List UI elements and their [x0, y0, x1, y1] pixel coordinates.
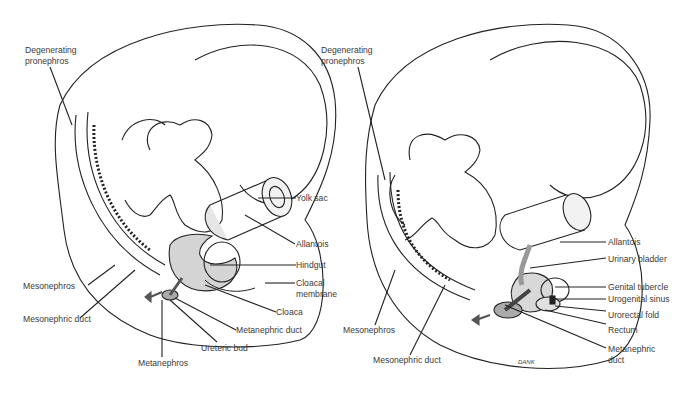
- right-embryo: [358, 24, 650, 368]
- label-mesonephros-left: Mesonephros: [23, 281, 75, 292]
- label-mesonephric-duct-right: Mesonephric duct: [373, 355, 441, 366]
- label-degenerating-pronephros-left: Degenerating pronephros: [25, 45, 77, 66]
- yolk-sac-shape: [205, 173, 297, 240]
- artist-signature: DANK: [518, 357, 535, 368]
- label-mesonephros-right: Mesonephros: [343, 325, 395, 336]
- label-metanephric-duct-left: Metanephric duct: [236, 325, 302, 336]
- label-metanephros-left: Metanephros: [138, 358, 188, 369]
- label-urinary-bladder-right: Urinary bladder: [608, 254, 667, 265]
- label-hindgut-left: Hindgut: [296, 260, 326, 271]
- label-cloaca-left: Cloaca: [276, 307, 303, 318]
- label-mesonephric-duct-left: Mesonephric duct: [23, 314, 91, 325]
- label-urogenital-sinus-right: Urogenital sinus: [608, 294, 670, 305]
- label-genital-tubercle-right: Genital tubercle: [608, 282, 668, 293]
- label-yolk-sac-left: Yolk sac: [296, 193, 328, 204]
- label-cloacal-membrane-left: Cloacal membrane: [296, 278, 337, 299]
- label-ureteric-bud-left: Ureteric bud: [201, 343, 248, 354]
- label-metanephric-duct-right: Metanephric duct: [608, 344, 655, 365]
- label-degenerating-pronephros-right: Degenerating pronephros: [321, 45, 373, 66]
- label-allantois-right: Allantois: [608, 237, 640, 248]
- label-allantois-left: Allantois: [296, 239, 328, 250]
- label-rectum-right: Rectum: [608, 325, 638, 336]
- label-urorectal-fold-right: Urorectal fold: [608, 310, 659, 321]
